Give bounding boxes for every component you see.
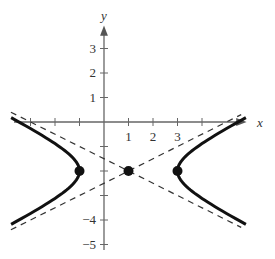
y-tick-label: 2 (90, 65, 97, 80)
y-tick-label: 3 (90, 41, 97, 56)
y-tick-label: 1 (90, 90, 97, 105)
x-axis-label: x (256, 115, 263, 130)
tick-labels: 123321−4−5xy (82, 8, 263, 252)
y-axis-label: y (99, 8, 107, 23)
x-tick-label: 2 (150, 129, 157, 144)
x-tick-label: 3 (174, 129, 181, 144)
x-tick-label: 1 (125, 129, 132, 144)
key-points (75, 166, 183, 176)
hyperbola-left-branch (11, 118, 79, 225)
hyperbola-chart: 123321−4−5xy (0, 0, 275, 259)
y-tick-label: −5 (82, 237, 96, 252)
y-tick-label: −4 (82, 212, 96, 227)
center (124, 166, 134, 176)
vertex-left (75, 166, 85, 176)
vertex-right (173, 166, 183, 176)
hyperbola-right-branch (178, 118, 246, 225)
